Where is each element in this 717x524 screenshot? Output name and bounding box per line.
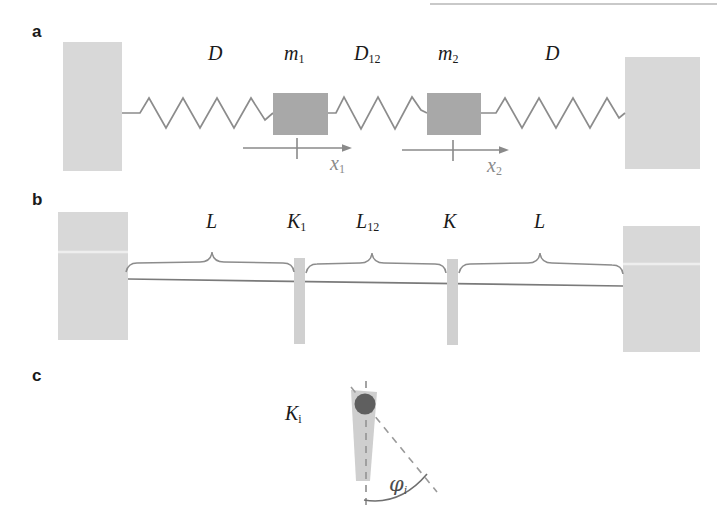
wall-right-a bbox=[625, 57, 700, 169]
figure-graphics bbox=[0, 0, 717, 524]
wall-left-b bbox=[58, 212, 128, 340]
wall-right-b bbox=[623, 226, 700, 352]
spring-right-a bbox=[481, 98, 625, 128]
mass-2-label: m2 bbox=[438, 42, 458, 67]
brace-length-middle bbox=[306, 253, 446, 273]
beam-axis-b bbox=[128, 279, 623, 286]
torsion-bar-k1 bbox=[294, 258, 305, 344]
figure-root: a b c bbox=[0, 0, 717, 524]
length-left-label: L bbox=[206, 210, 217, 233]
length-middle-label: L12 bbox=[356, 210, 379, 235]
torsion-k-label: K bbox=[443, 210, 456, 233]
torsion-bar-k bbox=[447, 259, 458, 345]
spring-middle-label: D12 bbox=[354, 42, 380, 67]
mass-1-label: m1 bbox=[284, 42, 304, 67]
pivot-bob-c bbox=[355, 394, 376, 415]
brace-length-right bbox=[459, 253, 623, 274]
torsion-k1-label: K1 bbox=[287, 210, 306, 235]
displacement-x1-label: x1 bbox=[330, 152, 345, 177]
length-right-label: L bbox=[534, 210, 545, 233]
brace-length-left bbox=[126, 252, 294, 272]
spring-middle-a bbox=[328, 97, 427, 129]
spring-left-label: D bbox=[208, 42, 222, 65]
torsion-ki-label: Ki bbox=[285, 402, 302, 427]
mass-block-1 bbox=[273, 93, 328, 135]
displacement-x2-label: x2 bbox=[487, 154, 502, 179]
mass-block-2 bbox=[427, 93, 481, 135]
panel-a-graphics bbox=[63, 42, 700, 171]
spring-left-a bbox=[122, 98, 273, 128]
spring-right-label: D bbox=[545, 42, 559, 65]
wall-left-a bbox=[63, 42, 122, 171]
angle-phi-label: φi bbox=[389, 472, 407, 498]
